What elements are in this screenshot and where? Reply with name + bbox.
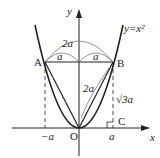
y-axis-arrow-icon xyxy=(76,9,82,18)
curve-label: y=x² xyxy=(124,23,145,34)
label-neg-a: −a xyxy=(41,131,54,142)
x-axis-arrow-icon xyxy=(141,125,150,131)
point-B: B xyxy=(117,58,124,69)
right-angle-mark xyxy=(107,122,113,128)
segment-OB xyxy=(79,62,113,128)
label-2a-slant: 2a xyxy=(83,83,94,94)
segment-OA xyxy=(45,62,79,128)
point-A: A xyxy=(34,57,42,68)
origin-label: O xyxy=(70,131,78,142)
label-2a-top: 2a xyxy=(62,38,73,49)
label-sqrt3a: √3a xyxy=(116,94,133,105)
x-axis-label: x xyxy=(150,132,155,143)
label-pos-a: a xyxy=(109,131,115,142)
label-a-left: a xyxy=(57,51,63,62)
y-axis-label: y xyxy=(67,6,72,17)
label-a-right: a xyxy=(93,51,99,62)
parabola-diagram: y x y=x² 2a a a A B 2a √3a C −a O a xyxy=(0,0,160,158)
point-C: C xyxy=(118,116,125,127)
